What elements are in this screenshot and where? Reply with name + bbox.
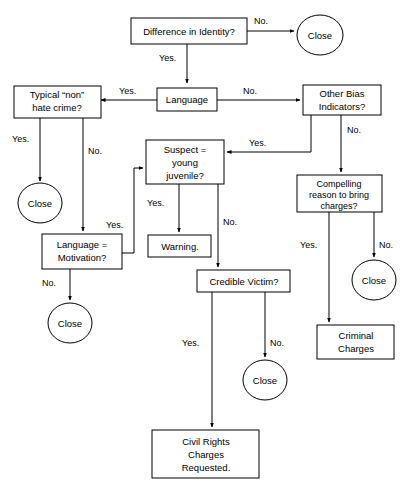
node-typical-non-hate-crime-label-line1: Typical “non” [30, 89, 84, 100]
edge-label-victim-yes: Yes. [182, 338, 199, 348]
edge-label-juvenile-yes: Yes. [147, 198, 164, 208]
node-difference-in-identity-label: Difference in Identity? [143, 26, 235, 37]
node-suspect-young-juvenile-label-line3: juvenile? [165, 170, 204, 181]
node-other-bias-indicators[interactable]: Other Bias Indicators? [303, 85, 381, 115]
flowchart-canvas: Close 1 --> No. Language --> Yes. Typica… [0, 0, 407, 493]
node-close-3[interactable]: Close [48, 303, 92, 343]
edge-label-language-no: No. [243, 86, 257, 96]
edge-label-typical-yes: Yes. [12, 134, 29, 144]
node-typical-non-hate-crime-label-line2: hate crime? [32, 102, 82, 113]
flowchart-svg: Close 1 --> No. Language --> Yes. Typica… [0, 0, 407, 493]
edge-label-compelling-yes: Yes. [300, 240, 317, 250]
edge-label-compelling-no: No. [379, 240, 393, 250]
node-credible-victim[interactable]: Credible Victim? [197, 270, 290, 292]
node-language-motivation-label-line2: Motivation? [58, 252, 107, 263]
node-compelling-reason-label-line1: Compelling [316, 179, 361, 189]
edge-label-bias-yes: Yes. [249, 138, 266, 148]
node-civil-rights-charges-label-line3: Requested. [182, 462, 231, 473]
edge-bias-yes [227, 115, 311, 152]
node-compelling-reason-label-line3: charges? [320, 201, 357, 211]
node-other-bias-indicators-label-line1: Other Bias [320, 88, 365, 99]
edge-label-language-yes: Yes. [119, 86, 136, 96]
node-close-3-label: Close [58, 318, 82, 329]
node-close-4-label: Close [253, 375, 277, 386]
node-close-1-label: Close [308, 30, 332, 41]
node-close-5[interactable]: Close [352, 260, 396, 300]
edge-label-juvenile-no: No. [223, 217, 237, 227]
node-civil-rights-charges[interactable]: Civil Rights Charges Requested. [152, 430, 259, 478]
edge-label-motivation-no: No. [42, 278, 56, 288]
node-close-2[interactable]: Close [18, 183, 62, 223]
node-difference-in-identity[interactable]: Difference in Identity? [131, 18, 247, 44]
node-other-bias-indicators-label-line2: Indicators? [319, 101, 365, 112]
node-language-label: Language [166, 94, 208, 105]
node-civil-rights-charges-label-line1: Civil Rights [182, 436, 230, 447]
node-criminal-charges-label-line1: Criminal [339, 330, 374, 341]
edge-label-bias-no: No. [347, 125, 361, 135]
node-compelling-reason-label-line2: reason to bring [309, 190, 369, 200]
edge-label-identity-yes: Yes. [159, 53, 176, 63]
edge-label-typical-no: No. [88, 146, 102, 156]
node-civil-rights-charges-label-line2: Charges [188, 449, 224, 460]
node-suspect-young-juvenile-label-line1: Suspect = [164, 144, 207, 155]
edge-label-motivation-yes: Yes. [106, 220, 123, 230]
node-language-motivation-label-line1: Language = [57, 239, 108, 250]
node-warning[interactable]: Warning. [148, 235, 211, 257]
node-language-motivation[interactable]: Language = Motivation? [42, 234, 122, 269]
node-warning-label: Warning. [161, 241, 199, 252]
node-suspect-young-juvenile[interactable]: Suspect = young juvenile? [146, 140, 224, 184]
edge-label-identity-no: No. [254, 16, 268, 26]
node-suspect-young-juvenile-label-line2: young [172, 157, 198, 168]
node-criminal-charges-label-line2: Charges [338, 343, 374, 354]
node-typical-non-hate-crime[interactable]: Typical “non” hate crime? [14, 86, 101, 118]
edge-motivation-yes [122, 168, 143, 253]
node-criminal-charges[interactable]: Criminal Charges [317, 325, 394, 359]
node-credible-victim-label: Credible Victim? [210, 276, 279, 287]
node-compelling-reason[interactable]: Compelling reason to bring charges? [297, 175, 382, 212]
node-close-5-label: Close [362, 275, 386, 286]
node-close-4[interactable]: Close [243, 360, 287, 400]
node-close-1[interactable]: Close [297, 15, 343, 55]
edge-label-victim-no: No. [270, 338, 284, 348]
node-language[interactable]: Language [157, 88, 217, 111]
node-close-2-label: Close [28, 198, 52, 209]
